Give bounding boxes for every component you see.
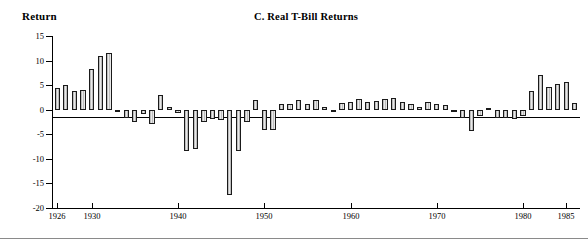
bar-1934 xyxy=(124,110,129,118)
bar-1940 xyxy=(175,110,180,113)
bar-1936 xyxy=(141,110,146,114)
bar-1969 xyxy=(425,102,430,110)
bar-1952 xyxy=(279,104,284,109)
chart-title: C. Real T-Bill Returns xyxy=(0,11,588,22)
bar-1930 xyxy=(89,69,94,109)
y-tick-label-15: 15 xyxy=(18,32,44,41)
bar-1958 xyxy=(331,110,336,112)
bar-1975 xyxy=(477,110,482,116)
bar-1967 xyxy=(408,104,413,109)
bar-1937 xyxy=(149,110,154,124)
bar-1971 xyxy=(443,105,448,110)
bar-1948 xyxy=(244,110,249,122)
bar-1985 xyxy=(564,82,569,110)
y-tick-label--5: -5 xyxy=(18,130,44,139)
x-tick-label-1985: 1985 xyxy=(546,212,586,221)
y-tick-label-0: 0 xyxy=(18,106,44,115)
x-tick-label-1926: 1926 xyxy=(37,212,77,221)
bar-1944 xyxy=(210,110,215,119)
bar-1970 xyxy=(434,104,439,109)
figure: Return C. Real T-Bill Returns 151050-5-1… xyxy=(0,0,588,252)
bar-1947 xyxy=(236,110,241,152)
bar-1968 xyxy=(417,107,422,110)
footer-divider xyxy=(0,238,588,239)
bar-1945 xyxy=(218,110,223,120)
y-tick-label-5: 5 xyxy=(18,81,44,90)
bar-1965 xyxy=(391,98,396,109)
bar-1984 xyxy=(555,84,560,110)
bar-1950 xyxy=(262,110,267,130)
bar-1928 xyxy=(72,91,77,110)
bar-1957 xyxy=(322,107,327,109)
bar-1981 xyxy=(529,91,534,110)
bar-1982 xyxy=(538,75,543,109)
x-tick-label-1960: 1960 xyxy=(331,212,371,221)
bar-1953 xyxy=(287,104,292,109)
bar-1977 xyxy=(495,110,500,118)
bar-1963 xyxy=(374,101,379,110)
bar-1961 xyxy=(356,99,361,110)
bar-1929 xyxy=(80,90,85,110)
y-tick-label-10: 10 xyxy=(18,57,44,66)
bar-1976 xyxy=(486,108,491,110)
x-tick-label-1980: 1980 xyxy=(503,212,543,221)
y-tick-label--10: -10 xyxy=(18,155,44,164)
bar-1966 xyxy=(400,102,405,109)
x-tick-label-1950: 1950 xyxy=(244,212,284,221)
bar-1926 xyxy=(55,88,60,110)
bar-1943 xyxy=(201,110,206,123)
bar-1974 xyxy=(469,110,474,131)
bar-1954 xyxy=(296,100,301,110)
bar-1986 xyxy=(572,103,577,109)
bar-1935 xyxy=(132,110,137,123)
x-axis-line xyxy=(52,208,580,209)
y-tick-label--15: -15 xyxy=(18,179,44,188)
x-tick-label-1970: 1970 xyxy=(417,212,457,221)
bar-1939 xyxy=(167,107,172,110)
bar-1978 xyxy=(503,110,508,118)
bar-1933 xyxy=(115,110,120,112)
bar-1964 xyxy=(382,99,387,110)
bar-1983 xyxy=(546,87,551,110)
x-tick-label-1940: 1940 xyxy=(158,212,198,221)
bar-1972 xyxy=(451,110,456,112)
bar-1973 xyxy=(460,110,465,118)
bar-1949 xyxy=(253,100,258,110)
bar-1946 xyxy=(227,110,232,196)
bar-1956 xyxy=(313,100,318,110)
bar-1932 xyxy=(106,53,111,110)
y-tick--20 xyxy=(46,208,53,209)
bar-1959 xyxy=(339,103,344,110)
bar-1941 xyxy=(184,110,189,151)
bar-1938 xyxy=(158,95,163,110)
bar-1931 xyxy=(98,56,103,110)
bar-1942 xyxy=(193,110,198,149)
bar-1951 xyxy=(270,110,275,130)
bar-1955 xyxy=(305,104,310,110)
x-tick-label-1930: 1930 xyxy=(72,212,112,221)
bar-1927 xyxy=(63,85,68,110)
bar-1980 xyxy=(520,110,525,116)
bar-1962 xyxy=(365,102,370,109)
bar-1960 xyxy=(348,102,353,109)
bar-1979 xyxy=(512,110,517,119)
